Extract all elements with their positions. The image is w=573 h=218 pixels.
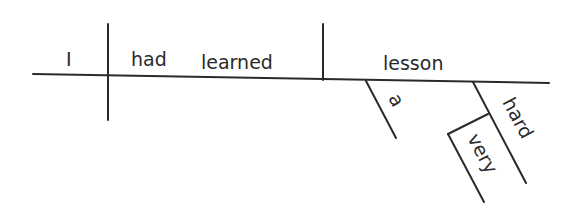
diagram-svg: I had learned lesson a hard very bbox=[0, 0, 573, 218]
modifier-line-a bbox=[366, 81, 396, 138]
verb-word-had: had bbox=[131, 48, 167, 70]
sentence-diagram: I had learned lesson a hard very bbox=[0, 0, 573, 218]
baseline bbox=[33, 74, 549, 83]
direct-object-word: lesson bbox=[383, 52, 443, 74]
modifier-word-a: a bbox=[384, 90, 409, 111]
modifier-word-hard: hard bbox=[498, 94, 538, 143]
modifier-word-very: very bbox=[463, 130, 502, 177]
verb-word-learned: learned bbox=[201, 51, 273, 73]
subject-word: I bbox=[66, 48, 72, 70]
